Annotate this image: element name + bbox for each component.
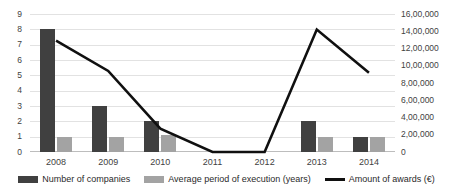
line-series-amount-of-awards bbox=[30, 14, 395, 152]
y-left-tick-4: 4 bbox=[17, 86, 22, 95]
legend-swatch-icon-1 bbox=[144, 176, 164, 183]
y-left-tick-2: 2 bbox=[17, 117, 22, 126]
y-right-tick-1600000: 16,00,000 bbox=[401, 10, 439, 19]
y-left-tick-5: 5 bbox=[17, 71, 22, 80]
x-axis-tick-2011: 2011 bbox=[186, 155, 238, 169]
plot-area bbox=[30, 14, 395, 152]
legend-label-1: Average period of execution (years) bbox=[168, 174, 310, 184]
y-left-tick-7: 7 bbox=[17, 40, 22, 49]
y-right-tick-1400000: 14,00,000 bbox=[401, 27, 439, 36]
legend-label-2: Amount of awards (€) bbox=[349, 174, 435, 184]
y-right-tick-1200000: 12,00,000 bbox=[401, 44, 439, 53]
x-axis-tick-2012: 2012 bbox=[239, 155, 291, 169]
y-left-tick-1: 1 bbox=[17, 132, 22, 141]
y-axis-right: 02,00,0004,00,0006,00,0008,00,00010,00,0… bbox=[399, 14, 453, 152]
x-axis-labels: 2008200920102011201220132014 bbox=[30, 155, 395, 169]
x-axis-tick-2008: 2008 bbox=[30, 155, 82, 169]
x-axis-tick-2014: 2014 bbox=[343, 155, 395, 169]
y-left-tick-8: 8 bbox=[17, 25, 22, 34]
combo-chart: 0123456789 02,00,0004,00,0006,00,0008,00… bbox=[0, 0, 453, 188]
x-axis-tick-2009: 2009 bbox=[82, 155, 134, 169]
y-left-tick-0: 0 bbox=[17, 148, 22, 157]
legend-swatch-icon-0 bbox=[18, 176, 38, 183]
y-axis-left: 0123456789 bbox=[0, 14, 26, 152]
chart-legend: Number of companiesAverage period of exe… bbox=[0, 170, 453, 188]
x-axis-tick-2013: 2013 bbox=[291, 155, 343, 169]
y-left-tick-6: 6 bbox=[17, 56, 22, 65]
x-axis-tick-2010: 2010 bbox=[134, 155, 186, 169]
legend-item-0[interactable]: Number of companies bbox=[18, 174, 130, 184]
legend-swatch-icon-2 bbox=[325, 178, 345, 181]
y-right-tick-800000: 8,00,000 bbox=[401, 79, 434, 88]
y-right-tick-1000000: 10,00,000 bbox=[401, 61, 439, 70]
y-right-tick-600000: 6,00,000 bbox=[401, 96, 434, 105]
legend-item-2[interactable]: Amount of awards (€) bbox=[325, 174, 435, 184]
y-right-tick-200000: 2,00,000 bbox=[401, 130, 434, 139]
legend-label-0: Number of companies bbox=[42, 174, 130, 184]
y-right-tick-400000: 4,00,000 bbox=[401, 113, 434, 122]
y-left-tick-3: 3 bbox=[17, 102, 22, 111]
y-right-tick-0: 0 bbox=[401, 148, 406, 157]
legend-item-1[interactable]: Average period of execution (years) bbox=[144, 174, 310, 184]
y-left-tick-9: 9 bbox=[17, 10, 22, 19]
